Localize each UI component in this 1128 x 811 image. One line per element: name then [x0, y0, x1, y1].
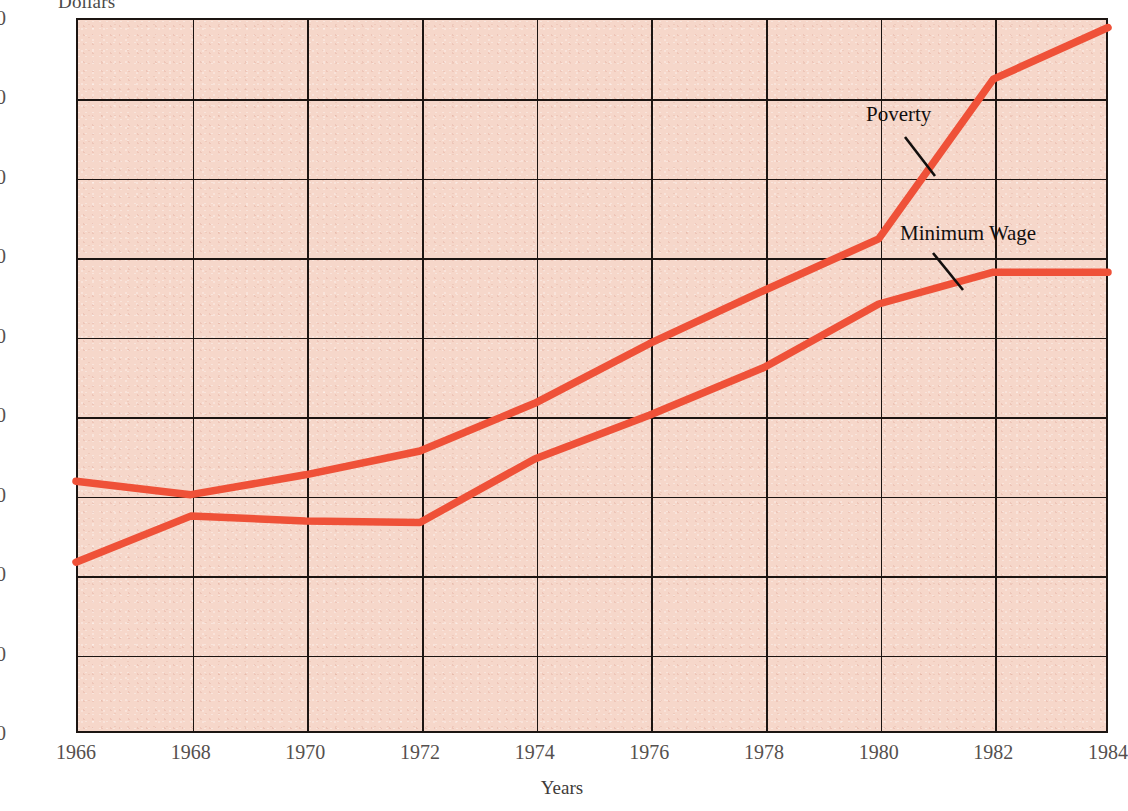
gridline-horizontal: [78, 576, 1106, 578]
gridline-horizontal: [78, 338, 1106, 340]
y-tick-label: 400: [0, 404, 6, 427]
gridline-horizontal: [78, 656, 1106, 658]
x-tick-label: 1974: [515, 741, 555, 764]
plot-background-texture: [78, 20, 1106, 731]
x-tick-label: 1968: [171, 741, 211, 764]
gridline-horizontal: [78, 497, 1106, 499]
y-tick-label: 700: [0, 165, 6, 188]
gridline-vertical: [307, 20, 309, 731]
y-tick-label: 0: [0, 722, 6, 745]
x-axis-title: Years: [0, 777, 1124, 799]
gridline-vertical: [766, 20, 768, 731]
x-tick-label: 1982: [973, 741, 1013, 764]
gridline-vertical: [651, 20, 653, 731]
gridline-horizontal: [78, 179, 1106, 181]
y-tick-label: 300: [0, 483, 6, 506]
gridline-horizontal: [78, 258, 1106, 260]
x-tick-label: 1966: [56, 741, 96, 764]
y-tick-label: 600: [0, 245, 6, 268]
y-tick-label: 900: [0, 7, 6, 30]
x-tick-label: 1976: [629, 741, 669, 764]
gridline-vertical: [422, 20, 424, 731]
x-tick-label: 1978: [744, 741, 784, 764]
annotation-poverty: Poverty: [866, 102, 931, 127]
y-tick-label: 800: [0, 86, 6, 109]
x-tick-label: 1970: [285, 741, 325, 764]
gridline-vertical: [193, 20, 195, 731]
x-tick-label: 1972: [400, 741, 440, 764]
x-tick-label: 1984: [1088, 741, 1128, 764]
y-tick-label: 200: [0, 563, 6, 586]
y-tick-label: 100: [0, 642, 6, 665]
gridline-horizontal: [78, 417, 1106, 419]
x-tick-label: 1980: [859, 741, 899, 764]
y-axis-caption: Dollars: [58, 0, 115, 13]
y-tick-label: 500: [0, 324, 6, 347]
gridline-vertical: [995, 20, 997, 731]
annotation-minimum-wage: Minimum Wage: [900, 221, 1036, 246]
plot-area: [76, 18, 1108, 733]
gridline-horizontal: [78, 99, 1106, 101]
gridline-vertical: [537, 20, 539, 731]
